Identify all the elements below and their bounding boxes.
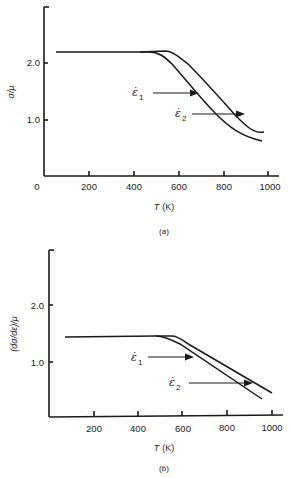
panel-a-eps2-arrowhead-icon [236, 111, 245, 118]
panel-b-xtick-label-200: 200 [86, 423, 102, 434]
panel-b-eps1-symbol: ε̇ [131, 351, 137, 364]
figure: 2.0 1.0 0 200 400 600 800 1000 σ/μ T(K) … [0, 0, 293, 478]
panel-a-eps2-subscript: 2 [182, 114, 187, 123]
panel-a-curve-eps2 [140, 51, 264, 132]
panel-a-origin-label: 0 [34, 181, 39, 192]
panel-b-y-axis-title: (dσ/dε)/μ [9, 316, 19, 351]
panel-a-label: (a) [159, 227, 169, 236]
panel-b-xtick-label-1000: 1000 [261, 422, 282, 433]
panel-b-xlabel-unit: (K) [162, 443, 174, 453]
panel-b-label: (b) [159, 464, 169, 473]
panel-b: 2.0 1.0 200 400 600 800 1000 (dσ/dε)/μ T… [9, 250, 283, 473]
panel-a-eps1-symbol: ε̇ [132, 86, 138, 99]
panel-b-curve-eps1 [65, 336, 262, 399]
panel-a-xtick-label-600: 600 [171, 181, 187, 192]
panel-b-x-axis-title: T(K) [154, 443, 175, 453]
panel-b-ytick-label-1: 1.0 [31, 357, 44, 368]
panel-b-xlabel-var: T [154, 443, 161, 453]
panel-b-xtick-label-400: 400 [130, 423, 146, 434]
panel-b-eps1-subscript: 1 [138, 358, 143, 367]
panel-a-y-axis-title: σ/μ [6, 86, 16, 99]
panel-b-annotation-eps1: ε̇ 1 [131, 351, 194, 367]
panel-a: 2.0 1.0 0 200 400 600 800 1000 σ/μ T(K) … [6, 7, 281, 236]
panel-b-eps2-subscript: 2 [176, 383, 181, 392]
panel-b-eps2-symbol: ε̇ [169, 376, 175, 389]
panel-a-xtick-label-200: 200 [81, 181, 97, 192]
panel-a-x-axis-title: T(K) [154, 202, 175, 212]
panel-a-xtick-label-400: 400 [126, 181, 142, 192]
panel-a-xtick-label-800: 800 [216, 181, 232, 192]
panel-a-xtick-label-1000: 1000 [259, 181, 280, 192]
panel-b-ytick-label-2: 2.0 [31, 300, 44, 311]
panel-a-ytick-label-1: 1.0 [27, 114, 40, 125]
panel-b-xtick-label-600: 600 [175, 423, 191, 434]
panel-b-eps1-arrowhead-icon [185, 354, 194, 361]
panel-b-xtick-label-800: 800 [219, 422, 235, 433]
panel-a-xlabel-unit: (K) [162, 202, 174, 212]
panel-a-ytick-label-2: 2.0 [27, 57, 40, 68]
panel-a-curve-eps1 [56, 52, 262, 141]
panel-b-x-axis [49, 415, 283, 417]
panel-a-eps1-subscript: 1 [139, 93, 144, 102]
panel-a-annotation-eps1: ε̇ 1 [132, 86, 199, 102]
panel-a-xlabel-var: T [154, 202, 161, 212]
panel-a-eps2-symbol: ε̇ [175, 107, 181, 120]
